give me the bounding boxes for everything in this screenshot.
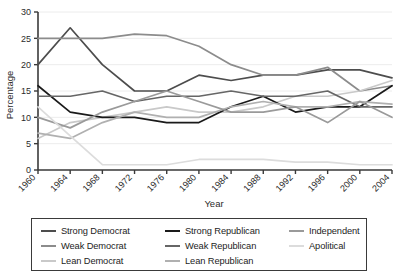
x-tick-label: 1968	[81, 172, 102, 193]
x-tick-label: 1960	[16, 172, 37, 193]
x-tick-label: 2000	[338, 172, 359, 193]
series-line-weak-democrat	[38, 34, 392, 91]
y-tick-label: 10	[21, 113, 31, 123]
legend-item-label: Strong Democrat	[61, 226, 130, 236]
x-tick-label: 1996	[306, 172, 327, 193]
legend-item-label: Weak Democrat	[61, 241, 126, 251]
y-tick-label: 5	[26, 139, 31, 149]
legend-line-icon	[41, 260, 56, 262]
line-chart: 051015202530 196019641968197219761980198…	[0, 0, 398, 212]
y-tick-label: 25	[21, 34, 31, 44]
x-tick-label: 1988	[241, 172, 262, 193]
legend-item[interactable]: Apolitical	[289, 238, 373, 253]
x-tick-label: 1976	[145, 172, 166, 193]
y-tick-label: 20	[21, 60, 31, 70]
series-lines	[38, 28, 392, 165]
x-axis-title: Year	[204, 198, 223, 209]
legend-item-label: Strong Republican	[185, 226, 260, 236]
y-tick-label: 30	[21, 7, 31, 17]
legend-item[interactable]: Strong Republican	[165, 223, 289, 238]
x-tick-label: 2004	[370, 172, 391, 193]
x-axis-ticks: 1960196419681972197619801984198819921996…	[16, 170, 392, 194]
legend-line-icon	[289, 245, 304, 247]
legend-line-icon	[289, 230, 304, 232]
legend-item-label: Apolitical	[309, 241, 345, 251]
legend-line-icon	[41, 230, 56, 232]
legend-item-label: Weak Republican	[185, 241, 256, 251]
y-axis-title: Percentage	[4, 71, 15, 120]
legend-item-label: Independent	[309, 226, 360, 236]
series-line-lean-democrat	[38, 80, 392, 138]
legend-item[interactable]: Lean Democrat	[41, 253, 165, 268]
y-axis-ticks: 051015202530	[21, 7, 38, 175]
x-tick-label: 1984	[209, 172, 230, 193]
legend-grid: Strong DemocratStrong RepublicanIndepend…	[32, 219, 366, 268]
x-tick-label: 1972	[113, 172, 134, 193]
legend-item[interactable]: Weak Democrat	[41, 238, 165, 253]
legend-item[interactable]: Strong Democrat	[41, 223, 165, 238]
legend-item[interactable]: Lean Republican	[165, 253, 289, 268]
figure-root: 051015202530 196019641968197219761980198…	[0, 0, 398, 279]
legend-item-label: Lean Republican	[185, 256, 253, 266]
y-tick-label: 15	[21, 86, 31, 96]
x-tick-label: 1992	[274, 172, 295, 193]
legend-line-icon	[165, 245, 180, 247]
x-tick-label: 1964	[48, 172, 69, 193]
chart-legend: Strong DemocratStrong RepublicanIndepend…	[31, 218, 367, 271]
legend-line-icon	[41, 245, 56, 247]
gridlines	[38, 12, 392, 170]
x-tick-label: 1980	[177, 172, 198, 193]
chart-canvas: 051015202530 196019641968197219761980198…	[0, 0, 398, 212]
legend-item-label: Lean Democrat	[61, 256, 123, 266]
series-line-strong-democrat	[38, 28, 392, 91]
legend-line-icon	[165, 230, 180, 232]
legend-spacer	[289, 253, 373, 268]
legend-line-icon	[165, 260, 180, 262]
legend-item[interactable]: Weak Republican	[165, 238, 289, 253]
legend-item[interactable]: Independent	[289, 223, 373, 238]
